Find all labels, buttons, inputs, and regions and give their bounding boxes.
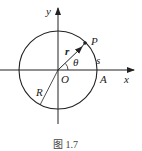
theta-label: θ — [73, 56, 79, 68]
p-label: P — [90, 35, 98, 47]
s-label: s — [96, 54, 100, 66]
point-p — [83, 41, 87, 45]
x-label: x — [123, 73, 129, 85]
o-label: O — [61, 73, 69, 85]
circular-motion-diagram: y x P r θ s O A R 图 1.7 — [0, 0, 142, 151]
figure-caption: 图 1.7 — [53, 139, 78, 150]
y-label: y — [45, 5, 51, 17]
angle-arc — [66, 64, 69, 71]
a-label: A — [99, 73, 107, 85]
r-label: r — [65, 45, 70, 57]
r-radius-label: R — [35, 86, 43, 98]
